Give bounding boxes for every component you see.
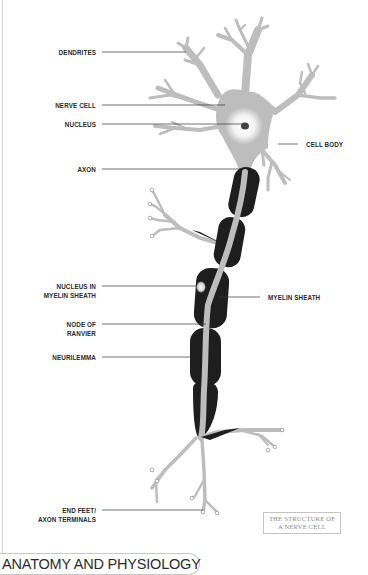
schwann-nucleus [196,281,206,293]
label-cell-body: CELL BODY [306,140,343,149]
collateral-terminals [148,188,154,238]
section-title: ANATOMY AND PHYSIOLOGY [2,556,201,572]
label-nerve-cell: NERVE CELL [55,101,96,110]
label-nucleus-in-myelin-sheath: NUCLEUS INMYELIN SHEATH [44,282,96,300]
label-end-feet: END FEET/AXON TERMINALS [38,506,96,524]
label-node-of-ranvier: NODE OFRANVIER [67,320,96,338]
label-axon: AXON [77,165,96,174]
nucleus-shape [241,123,249,130]
axon-collateral [150,190,225,245]
diagram-caption: THE STRUCTURE OF A NERVE CELL [263,512,341,534]
caption-line-2: A NERVE CELL [278,523,326,531]
label-myelin-sheath: MYELIN SHEATH [268,293,320,302]
label-nucleus: NUCLEUS [65,120,96,129]
caption-line-1: THE STRUCTURE OF [269,515,335,523]
label-neurilemma: NEURILEMMA [52,353,96,362]
axon-terminals [152,430,282,512]
label-dendrites: DENDRITES [59,48,96,57]
